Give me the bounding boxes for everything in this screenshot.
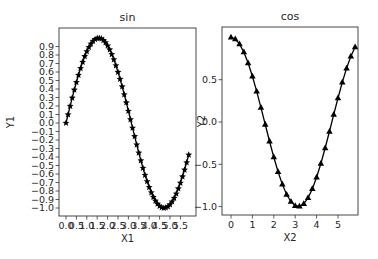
figure-canvas: 0.00.51.01.52.02.53.03.54.04.55.05.50.90… [0,0,378,259]
x-tick-label: 4 [314,219,320,230]
star-marker-icon [146,184,153,191]
x-tick-label: 5.5 [173,220,188,231]
triangle-marker-icon [275,168,281,174]
triangle-marker-icon [258,104,264,110]
triangle-marker-icon [241,49,247,55]
triangle-marker-icon [279,181,285,187]
y-axis-label: Y2 [196,115,207,128]
subplot-cos: 0123450.50.0−0.5−1.0cosX2Y2 [194,10,358,243]
subplot-sin: 0.00.51.01.52.02.53.03.54.04.55.05.50.90… [5,11,196,244]
chart-title: sin [120,11,136,24]
figure: 0.00.51.01.52.02.53.03.54.04.55.05.50.90… [0,0,378,259]
triangle-marker-icon [352,43,358,49]
star-marker-icon [175,185,182,192]
triangle-marker-icon [318,160,324,166]
x-axis-ticks: 012345 [228,215,341,230]
x-axis-label: X2 [283,232,296,243]
triangle-marker-icon [283,191,289,197]
triangle-marker-icon [348,53,354,59]
x-axis-label: X1 [121,233,134,244]
y-axis-label: Y1 [5,116,16,129]
y-axis-ticks: 0.50.0−0.5−1.0 [194,74,222,212]
triangle-marker-icon [228,34,234,40]
x-tick-label: 0 [228,219,234,230]
y-tick-label: −0.5 [194,159,217,170]
x-tick-label: 3 [292,219,298,230]
triangle-marker-icon [305,194,311,200]
triangle-marker-icon [330,111,336,117]
x-tick-label: 5 [335,219,341,230]
x-axis-ticks: 0.00.51.01.52.02.53.03.54.04.55.05.5 [58,216,188,231]
star-marker-icon [108,51,115,58]
x-tick-label: 2 [271,219,277,230]
triangle-marker-icon [262,121,268,127]
star-marker-icon [177,179,184,186]
triangle-marker-icon [343,65,349,71]
triangle-marker-icon [322,144,328,150]
axes-frame [222,27,358,215]
y-tick-label: −1.0 [31,202,54,213]
y-tick-label: −1.0 [194,201,217,212]
triangle-marker-icon [249,73,255,79]
triangle-marker-icon [245,59,251,65]
triangle-marker-icon [326,128,332,134]
triangle-marker-icon [271,154,277,160]
triangle-marker-icon [335,94,341,100]
triangle-marker-icon [313,174,319,180]
y-tick-label: 0.5 [202,74,217,85]
star-marker-icon [81,53,88,60]
triangle-marker-icon [309,185,315,191]
triangle-marker-icon [339,79,345,85]
y-axis-ticks: 0.90.80.70.60.50.40.30.20.10.0−0.1−0.2−0… [31,41,59,214]
x-tick-label: 1 [249,219,255,230]
star-marker-icon [63,119,70,126]
chart-title: cos [281,10,300,23]
markers-sin [63,34,193,210]
triangle-marker-icon [253,88,259,94]
triangle-marker-icon [266,138,272,144]
